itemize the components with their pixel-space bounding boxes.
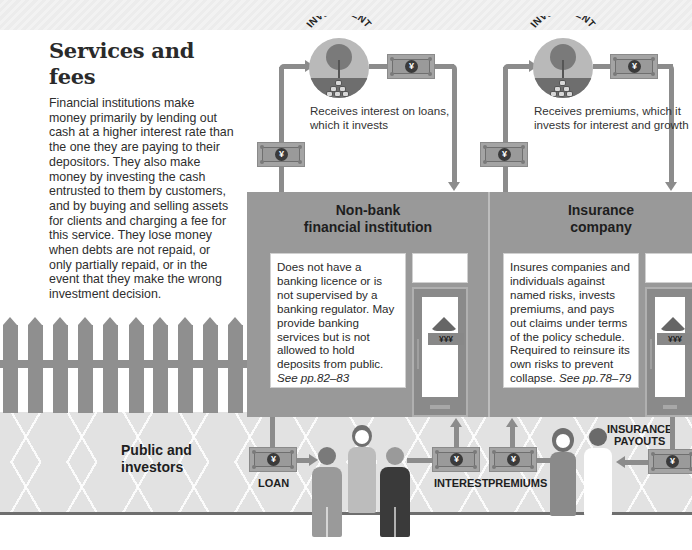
investment-label: INVESTMENT	[293, 16, 385, 50]
fence-picket	[153, 325, 168, 413]
fence-picket	[203, 325, 218, 413]
pipe-premiums-vertical	[510, 427, 515, 447]
door-sign: ¥¥¥	[657, 333, 692, 345]
building-description: Does not have a banking licence or is no…	[270, 253, 406, 388]
pipe-nb-left-vertical	[279, 67, 284, 192]
premiums-label: PREMIUMS	[488, 477, 547, 489]
door-transom	[645, 253, 692, 283]
fence-picket	[78, 325, 93, 413]
fence-picket	[178, 325, 193, 413]
pipe-payouts-horizontal	[624, 460, 648, 465]
banknote-icon: ¥	[610, 54, 658, 79]
insurance-payouts-label: INSURANCE PAYOUTS	[607, 423, 672, 447]
door-transom	[412, 253, 468, 283]
see-reference: See pp.82–83	[277, 371, 349, 384]
banknote-icon: ¥	[480, 142, 528, 167]
pipe-ins-left-vertical	[503, 67, 508, 192]
see-reference: See pp.78–79	[559, 371, 631, 384]
arrow-right-icon	[309, 454, 318, 466]
fence-picket	[3, 325, 18, 413]
pipe-interest-horizontal	[407, 458, 432, 463]
pipe-interest-vertical	[454, 427, 459, 447]
door-sign: ¥¥¥	[428, 333, 464, 345]
banknote-icon: ¥	[648, 449, 692, 474]
door: ¥¥¥	[412, 287, 468, 417]
fence-picket	[28, 325, 43, 413]
arrow-left-icon	[616, 456, 625, 468]
pipe-payouts-vertical	[670, 417, 675, 449]
door: ¥¥¥	[645, 287, 692, 417]
yen-coin-icon: ¥	[275, 148, 288, 161]
fence-picket	[103, 325, 118, 413]
building-description: Insures companies and individuals agains…	[503, 253, 639, 388]
yen-coin-icon: ¥	[405, 60, 418, 73]
building-title: Insurance company	[510, 202, 692, 236]
building-insurance: Insurance company Insures companies and …	[490, 192, 692, 417]
yen-coin-icon: ¥	[507, 453, 520, 466]
banknote-icon: ¥	[249, 447, 297, 472]
arrow-down-icon	[665, 182, 677, 191]
banknote-icon: ¥	[387, 54, 435, 79]
loan-label: LOAN	[258, 477, 289, 489]
banknote-icon: ¥	[432, 447, 480, 472]
section-title: Services and fees	[49, 38, 234, 90]
banknote-icon: ¥	[489, 447, 537, 472]
arrow-down-icon	[448, 182, 460, 191]
pipe-nb-right-vertical	[452, 64, 457, 184]
fence-picket	[228, 325, 243, 413]
banknote-icon: ¥	[257, 142, 305, 167]
yen-coin-icon: ¥	[666, 455, 679, 468]
svg-text:INVESTMENT: INVESTMENT	[528, 16, 597, 29]
intro-section: Services and fees Financial institutions…	[49, 38, 234, 302]
yen-coin-icon: ¥	[450, 453, 463, 466]
interest-label: INTEREST	[434, 477, 488, 489]
public-investors-label: Public and investors	[121, 442, 192, 476]
investment-label: INVESTMENT	[517, 16, 609, 50]
building-non-bank: Non-bank financial institution Does not …	[247, 192, 489, 417]
arrow-up-icon	[450, 418, 462, 427]
svg-text:INVESTMENT: INVESTMENT	[304, 16, 373, 29]
arrow-up-icon	[506, 418, 518, 427]
yen-coin-icon: ¥	[628, 60, 641, 73]
fence-picket	[129, 325, 144, 413]
building-title: Non-bank financial institution	[247, 202, 489, 236]
fence-picket	[53, 325, 68, 413]
yen-coin-icon: ¥	[267, 453, 280, 466]
investment-caption-nb: Receives interest on loans, which it inv…	[310, 104, 449, 131]
yen-coin-icon: ¥	[498, 148, 511, 161]
pipe-loan-vertical	[270, 417, 275, 447]
intro-body: Financial institutions make money primar…	[49, 96, 234, 302]
investment-caption-ins: Receives premiums, which it invests for …	[534, 104, 689, 131]
